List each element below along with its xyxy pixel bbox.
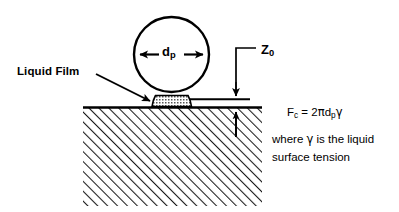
surface-tension-note-line-2: surface tension (272, 152, 350, 164)
gamma-symbol: γ (336, 105, 343, 119)
capillary-force-equation: Fc = 2πdpγ (287, 107, 342, 120)
separation-distance-label: Z0 (261, 43, 274, 58)
note-text-pre: where (272, 133, 307, 145)
equation-relation: = 2 (298, 106, 318, 118)
note-text-post: is the liquid (313, 133, 374, 145)
force-symbol: F (287, 106, 294, 118)
particle-diameter-label: dp (162, 45, 176, 60)
pi-symbol: π (318, 105, 325, 119)
liquid-film-meniscus (152, 96, 192, 107)
separation-subscript: 0 (269, 48, 274, 58)
capillary-force-diagram: Liquid Film dp Z0 Fc = 2πdpγ where γ is … (0, 0, 399, 212)
liquid-film-label: Liquid Film (17, 66, 79, 78)
surface-tension-note-line-1: where γ is the liquid (272, 134, 374, 146)
separation-symbol: Z (261, 42, 269, 57)
particle-diameter-subscript: p (170, 50, 176, 60)
particle-diameter-symbol: d (162, 44, 170, 59)
